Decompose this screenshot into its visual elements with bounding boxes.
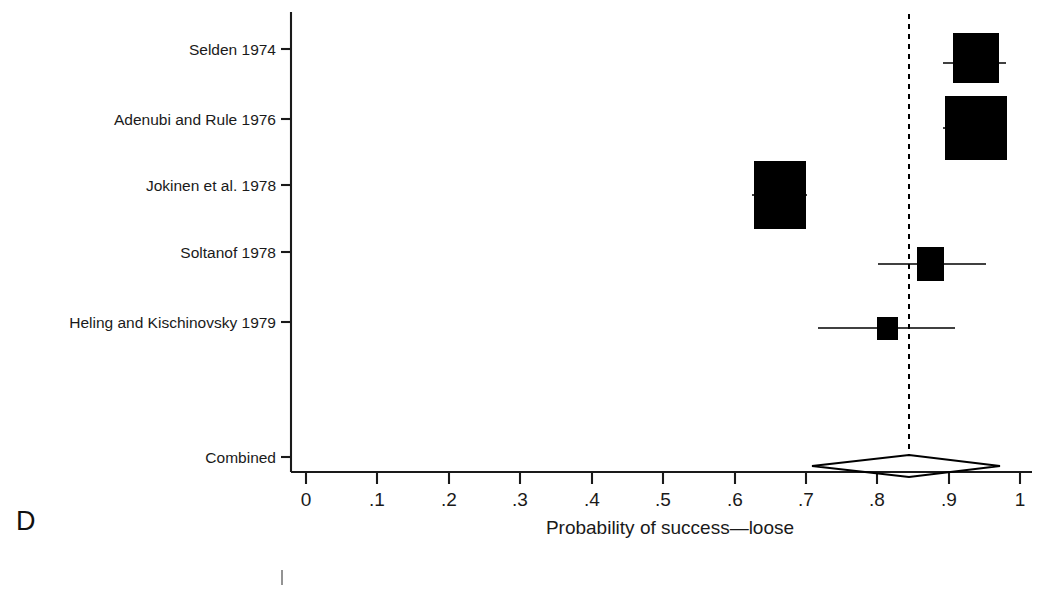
x-axis-tick-labels: 0 .1 .2 .3 .4 .5 .6 .7 .8 .9 1 — [301, 489, 1026, 510]
effect-box-selden — [953, 33, 999, 83]
x-tick-label-7: .7 — [798, 489, 814, 510]
x-tick-label-2: .2 — [441, 489, 457, 510]
effect-box-adenubi — [945, 96, 1007, 160]
study-label-combined: Combined — [205, 449, 276, 466]
x-tick-label-8: .8 — [869, 489, 885, 510]
x-axis-title: Probability of success—loose — [546, 517, 794, 538]
x-tick-label-9: .9 — [941, 489, 957, 510]
x-axis-ticks — [306, 472, 1020, 484]
x-tick-label-0: 0 — [301, 489, 312, 510]
combined-diamond — [812, 455, 1000, 477]
effect-box-jokinen — [754, 161, 806, 229]
forest-plot-svg: Selden 1974 Adenubi and Rule 1976 Jokine… — [0, 0, 1061, 590]
x-tick-label-4: .4 — [584, 489, 600, 510]
panel-letter: D — [16, 506, 36, 536]
study-markers — [752, 33, 1007, 340]
effect-box-soltanof — [917, 247, 944, 281]
x-tick-label-6: .6 — [727, 489, 743, 510]
effect-box-heling — [877, 317, 898, 340]
x-tick-label-3: .3 — [512, 489, 528, 510]
y-axis-ticks — [281, 49, 291, 457]
study-label-jokinen: Jokinen et al. 1978 — [146, 177, 276, 194]
scan-artifact-mark — [281, 570, 283, 585]
study-label-soltanof: Soltanof 1978 — [180, 244, 276, 261]
study-label-selden: Selden 1974 — [189, 41, 276, 58]
x-tick-label-10: 1 — [1015, 489, 1026, 510]
study-label-adenubi: Adenubi and Rule 1976 — [114, 111, 276, 128]
x-tick-label-1: .1 — [369, 489, 385, 510]
x-tick-label-5: .5 — [655, 489, 671, 510]
forest-plot-figure: Selden 1974 Adenubi and Rule 1976 Jokine… — [0, 0, 1061, 590]
study-label-heling: Heling and Kischinovsky 1979 — [69, 314, 276, 331]
y-axis-labels: Selden 1974 Adenubi and Rule 1976 Jokine… — [69, 41, 276, 466]
